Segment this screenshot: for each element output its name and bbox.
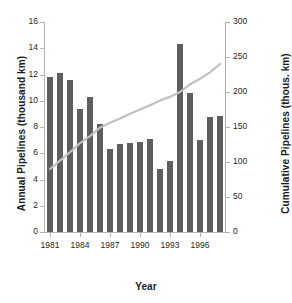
right-y-tick	[226, 232, 230, 233]
x-tick-label: 1996	[180, 240, 220, 250]
right-y-tick-label: 0	[233, 226, 263, 236]
left-y-tick-label: 16	[8, 16, 38, 26]
left-y-tick-label: 10	[8, 95, 38, 105]
x-tick	[200, 233, 201, 237]
x-tick	[140, 233, 141, 237]
x-tick	[80, 233, 81, 237]
left-y-tick-label: 8	[8, 121, 38, 131]
left-y-tick	[40, 75, 44, 76]
left-y-tick	[40, 48, 44, 49]
right-y-tick	[226, 197, 230, 198]
right-y-tick	[226, 127, 230, 128]
left-y-tick-label: 2	[8, 200, 38, 210]
left-y-tick	[40, 180, 44, 181]
plot-area: 0246810121416 050100150200250300 1981198…	[45, 22, 225, 232]
chart-figure: Annual Pipelines (thousand km) Cumulativ…	[0, 0, 292, 303]
left-y-tick-label: 4	[8, 174, 38, 184]
x-tick	[170, 233, 171, 237]
cumulative-line-layer	[45, 22, 225, 233]
left-y-tick	[40, 153, 44, 154]
x-tick	[110, 233, 111, 237]
y-axis-title-left: Annual Pipelines (thousand km)	[16, 24, 27, 244]
right-y-tick-label: 300	[233, 16, 263, 26]
left-y-tick-label: 0	[8, 226, 38, 236]
left-y-tick	[40, 22, 44, 23]
cumulative-line	[50, 64, 220, 169]
y-axis-title-right: Cumulative Pipelines (thous. km)	[280, 24, 291, 244]
left-y-tick-label: 6	[8, 147, 38, 157]
right-y-tick-label: 50	[233, 191, 263, 201]
x-tick	[50, 233, 51, 237]
right-y-tick	[226, 57, 230, 58]
right-y-tick-label: 100	[233, 156, 263, 166]
left-y-tick-label: 14	[8, 42, 38, 52]
x-axis-title: Year	[0, 281, 292, 292]
left-y-tick	[40, 206, 44, 207]
left-y-tick	[40, 127, 44, 128]
right-y-tick	[226, 162, 230, 163]
left-y-tick	[40, 232, 44, 233]
right-y-tick-label: 250	[233, 51, 263, 61]
left-y-tick-label: 12	[8, 69, 38, 79]
right-y-tick-label: 150	[233, 121, 263, 131]
right-y-tick	[226, 22, 230, 23]
right-y-tick-label: 200	[233, 86, 263, 96]
left-y-tick	[40, 101, 44, 102]
right-y-tick	[226, 92, 230, 93]
